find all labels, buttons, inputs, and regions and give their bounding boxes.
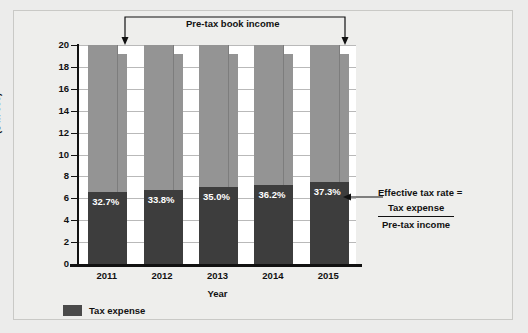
y-axis-tick-labels: 20181614121086420 (45, 0, 69, 333)
bar-data-label: 32.7% (89, 197, 122, 207)
y-tick-label: 8 (47, 171, 69, 181)
y-tick-mark (71, 89, 77, 90)
bar-data-label: 33.8% (145, 195, 178, 205)
plot-area: 32.7%33.8%35.0%36.2%37.3% (79, 45, 356, 264)
y-tick-label: 14 (47, 106, 69, 116)
annotation-effective-tax-rate: Effective tax rate = Tax expense Pre-tax… (378, 186, 518, 231)
bar-data-label: 37.3% (311, 187, 344, 197)
effective-tax-rate-fraction: Tax expense Pre-tax income (378, 201, 454, 232)
y-axis-title: ($ in 000) (0, 93, 2, 134)
y-tick-mark (71, 111, 77, 112)
y-tick-label: 18 (47, 62, 69, 72)
fraction-numerator: Tax expense (378, 201, 454, 216)
y-tick-mark (71, 176, 77, 177)
y-tick-mark (71, 45, 77, 46)
bar-data-label: 35.0% (200, 192, 233, 202)
bar-series: 32.7%33.8%35.0%36.2%37.3% (79, 45, 356, 264)
legend-label: Tax expense (89, 306, 145, 316)
y-tick-mark (71, 133, 77, 134)
y-tick-label: 0 (47, 259, 69, 269)
annotation-right-line1: Effective tax rate = (378, 186, 518, 200)
bar-group[interactable]: 35.0% (199, 45, 238, 264)
x-axis-tick-labels: 20112012201320142015 (79, 270, 356, 286)
x-tick-label: 2013 (194, 270, 242, 281)
legend-swatch (63, 305, 82, 316)
y-tick-label: 10 (47, 150, 69, 160)
y-tick-mark (71, 264, 77, 265)
y-tick-mark (71, 198, 77, 199)
bar-group[interactable]: 33.8% (144, 45, 183, 264)
y-tick-label: 16 (47, 84, 69, 94)
y-tick-label: 20 (47, 40, 69, 50)
bar-group[interactable]: 36.2% (254, 45, 293, 264)
y-tick-mark (71, 220, 77, 221)
bar-group[interactable]: 37.3% (310, 45, 349, 264)
x-tick-label: 2012 (138, 270, 186, 281)
y-tick-label: 12 (47, 128, 69, 138)
x-tick-label: 2014 (249, 270, 297, 281)
fraction-denominator: Pre-tax income (378, 216, 454, 232)
y-tick-mark (71, 242, 77, 243)
x-tick-label: 2011 (83, 270, 131, 281)
y-tick-label: 2 (47, 237, 69, 247)
bar-data-label: 36.2% (255, 190, 288, 200)
y-tick-mark (71, 67, 77, 68)
y-tick-label: 6 (47, 193, 69, 203)
bar-group[interactable]: 32.7% (88, 45, 127, 264)
y-tick-label: 4 (47, 215, 69, 225)
x-axis-line (70, 264, 362, 267)
y-tick-mark (71, 155, 77, 156)
chart-screenshot: 20181614121086420 ($ in 000) 32.7%33.8%3… (0, 0, 528, 333)
x-axis-title: Year (79, 288, 356, 299)
x-tick-label: 2015 (304, 270, 352, 281)
chart-legend: Tax expense (63, 305, 145, 316)
